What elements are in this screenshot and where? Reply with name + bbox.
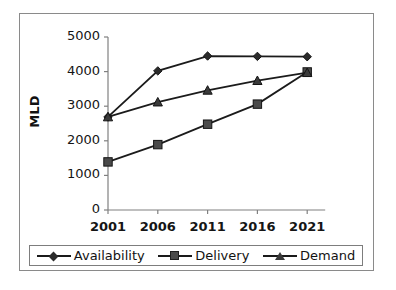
line-chart: MLD 010002000300040005000 20012006201120… [0, 0, 396, 290]
x-tick-label: 2011 [180, 219, 236, 234]
legend-label: Demand [299, 248, 355, 263]
x-tick-label: 2001 [80, 219, 136, 234]
triangle-marker-icon [263, 250, 297, 262]
y-axis-title: MLD [27, 72, 42, 152]
x-tick-label: 2021 [279, 219, 335, 234]
y-tick-label: 2000 [54, 134, 100, 146]
legend-item-demand[interactable]: Demand [263, 248, 355, 263]
y-tick-label: 3000 [54, 99, 100, 111]
x-tick-label: 2016 [229, 219, 285, 234]
y-tick-label: 0 [54, 203, 100, 215]
legend-label: Delivery [194, 248, 249, 263]
legend-label: Availability [73, 248, 145, 263]
x-tick-label: 2006 [130, 219, 186, 234]
diamond-marker-icon [37, 250, 71, 262]
y-tick-label: 5000 [54, 30, 100, 42]
legend-item-delivery[interactable]: Delivery [158, 248, 249, 263]
y-tick-label: 4000 [54, 65, 100, 77]
legend-item-availability[interactable]: Availability [37, 248, 145, 263]
x-axis-tick-labels: 20012006201120162021 [0, 219, 396, 239]
chart-legend: AvailabilityDeliveryDemand [29, 245, 363, 266]
y-tick-label: 1000 [54, 168, 100, 180]
square-marker-icon [158, 250, 192, 262]
